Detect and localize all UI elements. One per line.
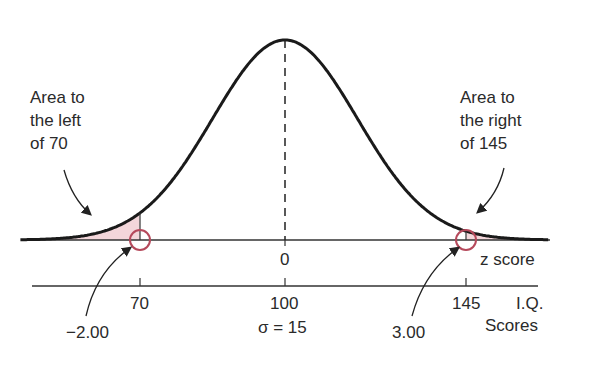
- z-right-value: 3.00: [392, 322, 425, 344]
- right-note-line: Area to: [460, 86, 521, 109]
- left-note-line: of 70: [30, 132, 85, 155]
- right-note-line: the right: [460, 109, 521, 132]
- arrow-left-note: [64, 170, 90, 214]
- left-note-line: the left: [30, 109, 85, 132]
- iq-axis-label-2: Scores: [485, 315, 538, 337]
- z-zero-label: 0: [280, 249, 289, 271]
- z-left-value: −2.00: [66, 322, 109, 344]
- arrow-z-left: [86, 248, 130, 316]
- arrow-right-note: [478, 168, 504, 212]
- iq-100-label: 100: [270, 293, 298, 315]
- iq-145-label: 145: [452, 293, 480, 315]
- left-note-line: Area to: [30, 86, 85, 109]
- sigma-label: σ = 15: [258, 317, 307, 339]
- iq-70-label: 70: [130, 293, 149, 315]
- right-note-line: of 145: [460, 132, 521, 155]
- z-axis-label: z score: [480, 249, 535, 271]
- left-area-note: Area to the left of 70: [30, 86, 85, 155]
- right-area-note: Area to the right of 145: [460, 86, 521, 155]
- iq-axis-label-1: I.Q.: [516, 293, 543, 315]
